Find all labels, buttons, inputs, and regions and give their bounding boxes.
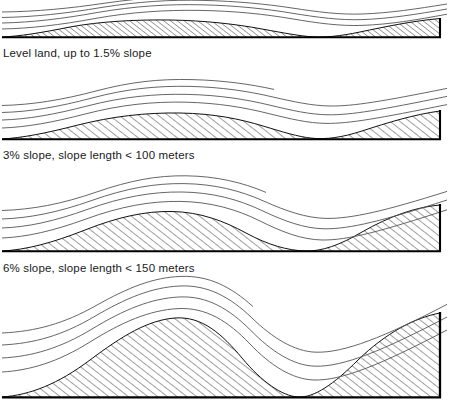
panel-4-streamline-4 xyxy=(2,276,253,333)
panel-4-cross-section xyxy=(0,276,449,400)
panel-2-streamline-3 xyxy=(2,86,447,112)
panel-2-streamline-2 xyxy=(2,94,447,120)
terrain-slope-figure xyxy=(0,0,449,401)
panel-3-cross-section xyxy=(0,176,449,253)
panel-2-cross-section xyxy=(0,79,449,141)
panel-1-cross-section xyxy=(0,0,449,40)
panel-2-caption: 3% slope, slope length < 100 meters xyxy=(3,149,195,162)
panel-3-streamline-3 xyxy=(2,184,447,219)
panel-3-caption: 6% slope, slope length < 150 meters xyxy=(3,262,195,275)
panel-2-streamline-4 xyxy=(2,79,274,105)
panel-1-streamline-3 xyxy=(2,0,447,17)
panel-1-caption: Level land, up to 1.5% slope xyxy=(3,47,152,60)
